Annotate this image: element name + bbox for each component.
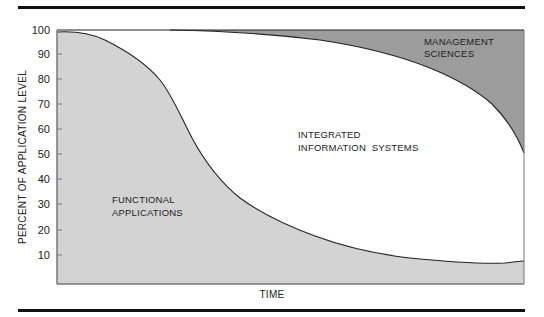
svg-text:INTEGRATED: INTEGRATED xyxy=(298,129,361,140)
svg-text:APPLICATIONS: APPLICATIONS xyxy=(112,207,183,218)
x-axis-title: TIME xyxy=(259,289,284,300)
y-tick-labels: 100 90 80 70 60 50 40 30 20 10 xyxy=(32,24,50,261)
y-tick-30: 30 xyxy=(38,198,50,210)
y-tick-60: 60 xyxy=(38,123,50,135)
y-tick-50: 50 xyxy=(38,148,50,160)
y-tick-40: 40 xyxy=(38,173,50,185)
svg-text:FUNCTIONAL: FUNCTIONAL xyxy=(112,194,175,205)
y-tick-20: 20 xyxy=(38,224,50,236)
svg-text:INFORMATION SYSTEMS: INFORMATION SYSTEMS xyxy=(298,142,418,153)
chart: 100 90 80 70 60 50 40 30 20 10 PERCENT O… xyxy=(0,0,544,317)
svg-text:MANAGEMENT: MANAGEMENT xyxy=(424,36,494,47)
y-tick-70: 70 xyxy=(38,98,50,110)
bottom-rule xyxy=(18,309,525,312)
svg-text:SCIENCES: SCIENCES xyxy=(424,48,474,59)
y-tick-90: 90 xyxy=(38,48,50,60)
y-tick-10: 10 xyxy=(38,249,50,261)
y-tick-100: 100 xyxy=(32,24,50,36)
y-tick-80: 80 xyxy=(38,73,50,85)
y-axis-title: PERCENT OF APPLICATION LEVEL xyxy=(17,70,28,244)
